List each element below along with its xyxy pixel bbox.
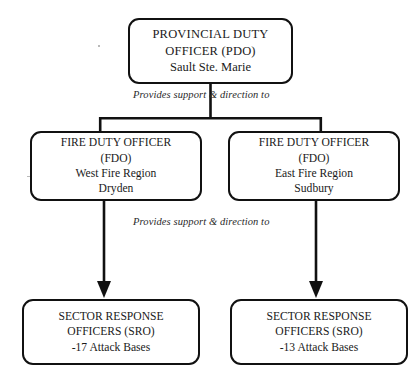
- node-fdo-west-line1: FIRE DUTY OFFICER: [61, 135, 171, 150]
- node-sro-west-line3: -17 Attack Bases: [72, 340, 151, 355]
- edge-label-pdo-to-fdo: Provides support & direction to: [133, 89, 269, 100]
- node-sector-response-officers-east: SECTOR RESPONSE OFFICERS (SRO) -13 Attac…: [230, 299, 408, 365]
- node-sro-east-line3: -13 Attack Bases: [280, 340, 359, 355]
- node-fdo-west-line3: West Fire Region: [76, 166, 157, 181]
- edge-label-fdo-to-sro: Provides support & direction to: [133, 216, 269, 227]
- node-fdo-west-line2: (FDO): [101, 151, 132, 166]
- node-pdo-line1: PROVINCIAL DUTY: [152, 26, 268, 43]
- node-sro-east-line1: SECTOR RESPONSE: [266, 309, 371, 324]
- node-sector-response-officers-west: SECTOR RESPONSE OFFICERS (SRO) -17 Attac…: [22, 299, 200, 365]
- node-fdo-east-line2: (FDO): [299, 151, 330, 166]
- node-provincial-duty-officer: PROVINCIAL DUTY OFFICER (PDO) Sault Ste.…: [128, 18, 293, 84]
- node-sro-west-line1: SECTOR RESPONSE: [58, 309, 163, 324]
- org-chart: PROVINCIAL DUTY OFFICER (PDO) Sault Ste.…: [0, 0, 418, 382]
- node-fdo-east-line1: FIRE DUTY OFFICER: [259, 135, 369, 150]
- arrowhead-west: [97, 281, 111, 298]
- node-fdo-west-line4: Dryden: [99, 181, 134, 196]
- node-pdo-line2: OFFICER (PDO): [165, 43, 255, 60]
- node-pdo-line3: Sault Ste. Marie: [170, 59, 251, 76]
- scan-artifact-speck: [27, 176, 30, 177]
- node-sro-west-line2: OFFICERS (SRO): [67, 324, 154, 339]
- node-fire-duty-officer-east: FIRE DUTY OFFICER (FDO) East Fire Region…: [228, 131, 400, 201]
- node-fire-duty-officer-west: FIRE DUTY OFFICER (FDO) West Fire Region…: [30, 131, 202, 201]
- node-fdo-east-line4: Sudbury: [294, 181, 333, 196]
- node-sro-east-line2: OFFICERS (SRO): [275, 324, 362, 339]
- scan-artifact-speck: [98, 45, 100, 47]
- node-fdo-east-line3: East Fire Region: [275, 166, 353, 181]
- arrowhead-east: [309, 281, 323, 298]
